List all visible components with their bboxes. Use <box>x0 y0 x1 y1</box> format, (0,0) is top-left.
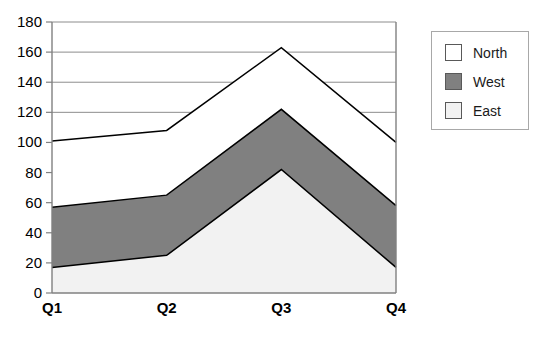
y-tick-label: 40 <box>25 224 42 241</box>
y-tick-label: 80 <box>25 164 42 181</box>
y-tick-label: 180 <box>17 13 42 30</box>
legend-label-north: North <box>473 46 507 60</box>
legend-swatch-north <box>445 44 462 61</box>
y-tick-label: 20 <box>25 254 42 271</box>
chart-legend: North West East <box>431 31 529 130</box>
y-tick-label: 120 <box>17 103 42 120</box>
x-category-label: Q4 <box>386 299 407 316</box>
x-category-label: Q3 <box>271 299 291 316</box>
x-category-label: Q2 <box>157 299 177 316</box>
y-tick-label: 140 <box>17 73 42 90</box>
legend-item-east[interactable]: East <box>445 102 501 119</box>
y-tick-labels: 020406080100120140160180 <box>17 13 42 301</box>
area-chart: 020406080100120140160180 Q1Q2Q3Q4 North … <box>0 0 539 339</box>
y-tick-label: 60 <box>25 194 42 211</box>
y-tick-label: 160 <box>17 43 42 60</box>
legend-swatch-east <box>445 102 462 119</box>
y-tick-marks <box>46 22 52 293</box>
y-tick-label: 0 <box>34 284 42 301</box>
legend-item-north[interactable]: North <box>445 44 507 61</box>
x-category-label: Q1 <box>42 299 62 316</box>
y-tick-label: 100 <box>17 133 42 150</box>
legend-swatch-west <box>445 73 462 90</box>
legend-label-west: West <box>473 75 505 89</box>
legend-item-west[interactable]: West <box>445 73 505 90</box>
x-category-labels: Q1Q2Q3Q4 <box>42 299 407 316</box>
legend-label-east: East <box>473 104 501 118</box>
stacked-area-series <box>52 48 396 293</box>
